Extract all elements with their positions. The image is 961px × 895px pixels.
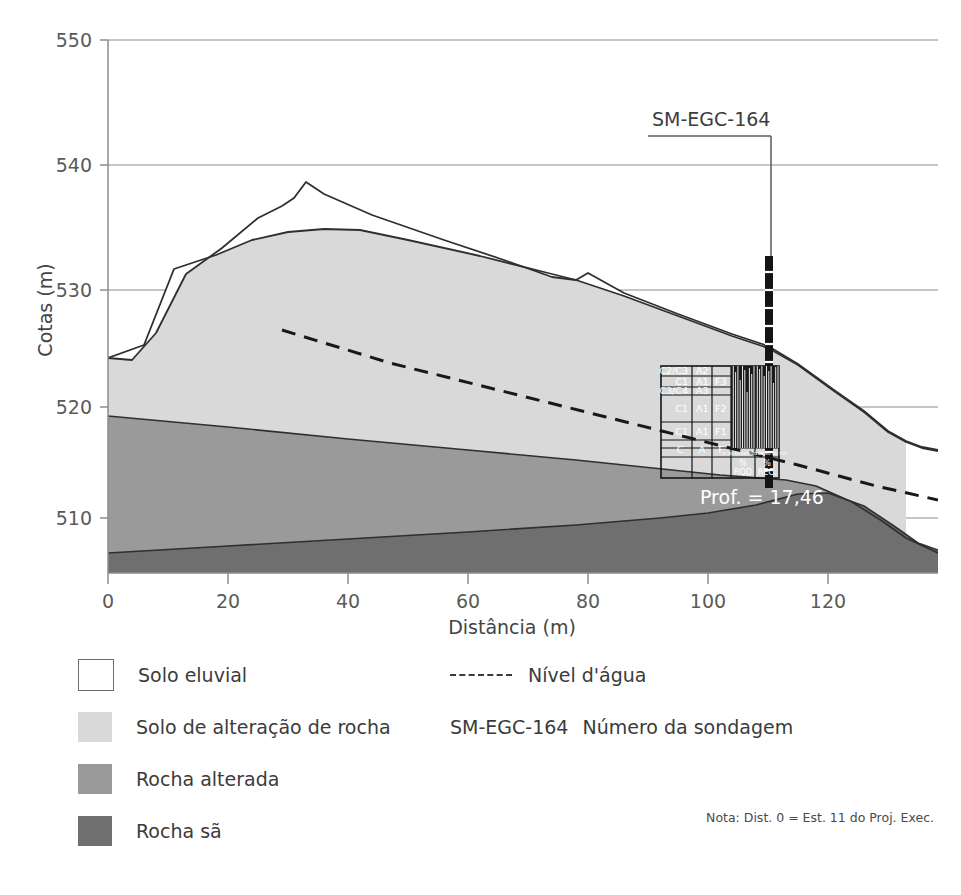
- x-tick-label-80: 80: [576, 590, 600, 612]
- legend-label-rocha-sa: Rocha sã: [136, 820, 222, 842]
- x-tick-marks: [108, 573, 828, 584]
- y-tick-label-520: 520: [56, 396, 92, 418]
- legend-swatch-solo-eluvial: [78, 659, 114, 691]
- y-tick-label-530: 530: [56, 279, 92, 301]
- log-cell-c-5: C: [677, 444, 684, 455]
- log-cell-a-0: A2: [696, 365, 709, 376]
- log-cell-c-0: C2/C3: [659, 365, 688, 376]
- borehole-depth-label: Prof. = 17,46: [700, 486, 824, 508]
- legend-item-solo-alteracao: Solo de alteração de rocha: [78, 701, 391, 753]
- rec-footer-label: REC.: [758, 468, 777, 477]
- legend-item-water-table: Nível d'água: [450, 649, 793, 701]
- water-table-dash-icon: [450, 674, 512, 676]
- figure-note: Nota: Dist. 0 = Est. 11 do Proj. Exec.: [706, 810, 934, 825]
- legend-label-solo-eluvial: Solo eluvial: [138, 664, 247, 686]
- legend-label-borehole-number: Número da sondagem: [582, 716, 793, 738]
- rqd-footer-label: RQD: [734, 468, 752, 477]
- legend-swatch-rocha-alterada: [78, 764, 112, 794]
- legend: Solo eluvial Solo de alteração de rocha …: [0, 645, 961, 895]
- rec-scale-labels: 0 20 40 60 80 100: [747, 451, 788, 456]
- legend-borehole-code: SM-EGC-164: [450, 716, 568, 738]
- legend-label-water-table: Nível d'água: [528, 664, 646, 686]
- x-tick-label-100: 100: [690, 590, 726, 612]
- y-axis-title: Cotas (m): [34, 263, 56, 356]
- x-tick-label-60: 60: [456, 590, 480, 612]
- legend-label-solo-alteracao: Solo de alteração de rocha: [136, 716, 391, 738]
- borehole-label: SM-EGC-164: [652, 108, 770, 130]
- log-cell-f-1: F3: [715, 376, 727, 387]
- legend-item-rocha-alterada: Rocha alterada: [78, 753, 391, 805]
- x-axis-title: Distância (m): [448, 616, 576, 638]
- y-tick-label-510: 510: [56, 507, 92, 529]
- legend-item-rocha-sa: Rocha sã: [78, 805, 391, 857]
- legend-symbols: Nível d'água SM-EGC-164 Número da sondag…: [450, 649, 793, 753]
- log-cell-a-2: A3: [696, 385, 709, 396]
- legend-item-solo-eluvial: Solo eluvial: [78, 649, 391, 701]
- legend-item-borehole-number: SM-EGC-164 Número da sondagem: [450, 701, 793, 753]
- x-tick-label-120: 120: [810, 590, 846, 612]
- rec-footer-pct: %: [763, 459, 771, 468]
- legend-materials: Solo eluvial Solo de alteração de rocha …: [78, 649, 391, 857]
- x-tick-label-0: 0: [102, 590, 114, 612]
- cross-section-figure: SM-EGC-164: [0, 0, 961, 650]
- geological-cross-section-svg: SM-EGC-164: [0, 0, 961, 650]
- x-tick-label-20: 20: [216, 590, 240, 612]
- x-tick-label-40: 40: [336, 590, 360, 612]
- legend-swatch-solo-alteracao: [78, 712, 112, 742]
- y-tick-label-550: 550: [56, 29, 92, 51]
- legend-label-rocha-alterada: Rocha alterada: [136, 768, 279, 790]
- legend-swatch-rocha-sa: [78, 816, 112, 846]
- log-cell-c-2: C3/C4: [659, 385, 688, 396]
- log-cell-a-3: A1: [696, 403, 709, 414]
- log-cell-c-4: C1: [675, 426, 688, 437]
- y-tick-marks: [100, 40, 108, 518]
- log-cell-a-4: A1: [696, 426, 709, 437]
- y-tick-label-540: 540: [56, 154, 92, 176]
- rqd-footer-pct: %: [739, 459, 747, 468]
- log-cell-f-3: F2: [715, 403, 727, 414]
- strata-group: [108, 182, 938, 573]
- log-cell-f-4: F1: [715, 426, 727, 437]
- log-cell-a-5: A: [699, 444, 706, 455]
- log-cell-c-3: C1: [675, 403, 688, 414]
